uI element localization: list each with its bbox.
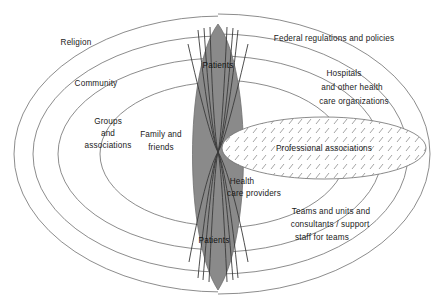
label-patients-bottom: Patients (199, 236, 230, 245)
label-teams-line2: consultants / support (291, 220, 370, 229)
label-groups-line2: and (101, 129, 115, 138)
label-family-line1: Family and (140, 130, 182, 139)
diagram-canvas: Religion Community Groups and associatio… (0, 0, 444, 308)
label-teams-line3: staff for teams (295, 233, 349, 242)
label-groups-line3: associations (85, 141, 132, 150)
label-health-line2: care providers (227, 189, 281, 198)
label-hospitals-line3: care organizations (319, 97, 389, 106)
label-hospitals-line1: Hospitals (326, 69, 361, 78)
label-groups-line1: Groups (94, 117, 122, 126)
label-health-line1: Health (230, 177, 255, 186)
label-family-line2: friends (148, 143, 174, 152)
label-federal-regulations: Federal regulations and policies (274, 34, 394, 43)
label-religion: Religion (61, 38, 92, 47)
label-patients-top: Patients (203, 61, 234, 70)
label-teams-line1: Teams and units and (292, 207, 371, 216)
diagram-root: Religion Community Groups and associatio… (0, 0, 444, 308)
label-professional-associations: Professional associations (276, 144, 372, 153)
label-hospitals-line2: and other health (321, 83, 383, 92)
label-community: Community (75, 79, 119, 88)
